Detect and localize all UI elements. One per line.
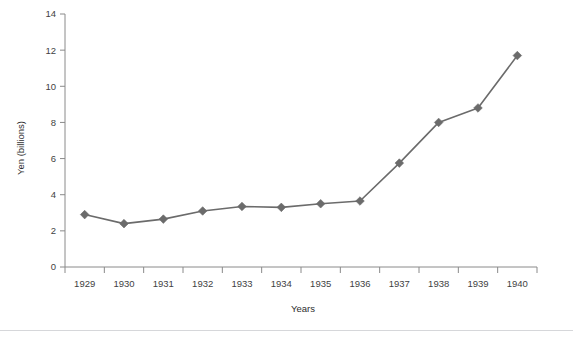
plot-area: 02468101214 1929193019311932193319341935…: [0, 0, 573, 320]
y-tick-label: 4: [51, 189, 56, 200]
data-point-marker: [277, 203, 286, 212]
y-tick-label: 0: [51, 261, 56, 272]
chart-figure: 02468101214 1929193019311932193319341935…: [0, 0, 573, 344]
x-tick-label: 1934: [271, 278, 292, 289]
y-axis: 02468101214: [45, 8, 65, 272]
bottom-divider: [0, 330, 573, 331]
data-point-marker: [159, 215, 168, 224]
y-tick-label: 12: [45, 45, 56, 56]
x-tick-label: 1930: [113, 278, 134, 289]
x-axis-title: Years: [291, 303, 315, 314]
x-tick-label: 1937: [389, 278, 410, 289]
x-tick-label: 1940: [507, 278, 528, 289]
data-point-marker: [238, 202, 247, 211]
y-tick-label: 6: [51, 153, 56, 164]
data-point-marker: [80, 210, 89, 219]
x-tick-label: 1932: [192, 278, 213, 289]
y-tick-label: 2: [51, 225, 56, 236]
data-point-marker: [198, 207, 207, 216]
y-axis-title: Yen (billions): [15, 121, 26, 175]
y-tick-label: 14: [45, 8, 56, 19]
x-tick-label: 1938: [428, 278, 449, 289]
x-tick-label: 1933: [231, 278, 252, 289]
y-tick-label: 10: [45, 81, 56, 92]
data-point-marker: [316, 199, 325, 208]
line-chart: 02468101214 1929193019311932193319341935…: [0, 0, 573, 320]
data-series-yen-billions: [80, 51, 521, 228]
y-tick-label: 8: [51, 117, 56, 128]
x-axis: 1929193019311932193319341935193619371938…: [65, 267, 537, 289]
x-tick-label: 1939: [467, 278, 488, 289]
series-line: [85, 56, 518, 224]
x-tick-label: 1929: [74, 278, 95, 289]
x-tick-label: 1931: [153, 278, 174, 289]
x-tick-label: 1935: [310, 278, 331, 289]
data-point-marker: [120, 219, 129, 228]
x-tick-label: 1936: [349, 278, 370, 289]
